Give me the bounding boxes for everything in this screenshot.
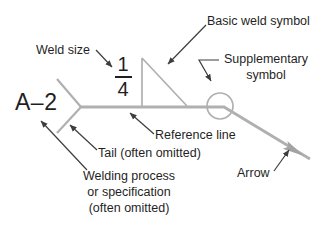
weld-size-label: Weld size: [36, 43, 90, 57]
leader-tail-icon: [70, 125, 97, 150]
tail-lower-line: [57, 107, 81, 133]
weld-size-denominator: 4: [112, 78, 134, 100]
tail-reference-code: A–2: [15, 91, 57, 114]
welding-process-label-line2: or specification: [76, 184, 182, 200]
leader-weld-size-icon: [96, 50, 112, 67]
leader-arrow-icon: [274, 150, 289, 171]
supplementary-symbol-label-line1: Supplementary: [217, 51, 315, 67]
supplementary-symbol-label-line2: symbol: [217, 67, 315, 83]
tail-label: Tail (often omitted): [98, 146, 201, 160]
fillet-weld-triangle-icon: [142, 58, 187, 106]
leader-welding-process-icon: [41, 121, 87, 170]
leader-basic-weld-symbol-icon: [168, 25, 206, 64]
supplementary-symbol-label: Supplementary symbol: [217, 51, 315, 83]
weld-size-fraction: 1 4: [112, 53, 134, 100]
welding-process-label: Welding process or specification (often …: [76, 168, 182, 216]
leader-reference-line-icon: [130, 113, 154, 134]
welding-process-label-line1: Welding process: [76, 168, 182, 184]
welding-process-label-line3: (often omitted): [76, 200, 182, 216]
leader-supplementary-symbol-icon: [199, 60, 219, 81]
reference-line-label: Reference line: [155, 128, 236, 142]
tail-upper-line: [57, 79, 81, 107]
arrow-label: Arrow: [237, 166, 270, 180]
basic-weld-symbol-label: Basic weld symbol: [207, 14, 310, 28]
welding-symbol-figure: Basic weld symbol Weld size Supplementar…: [0, 0, 327, 232]
weld-size-numerator: 1: [112, 53, 134, 76]
